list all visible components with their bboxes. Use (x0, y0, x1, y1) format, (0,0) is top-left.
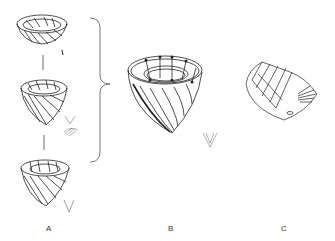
panel-b-cup (128, 56, 202, 133)
grouping-brace (90, 18, 110, 162)
panel-a-v-spicule (64, 200, 74, 212)
panel-a-middle-cup (21, 80, 67, 125)
panel-a-bottom-cup (21, 160, 69, 206)
panel-label-c: C (281, 224, 287, 233)
panel-c-shell (246, 62, 317, 120)
panel-b-v-spicule (203, 133, 217, 147)
panel-label-b: B (168, 224, 173, 233)
figure-canvas (0, 0, 335, 241)
panel-a-fan-spicule (64, 116, 78, 136)
panel-label-a: A (46, 224, 51, 233)
panel-a-top-cup (17, 15, 67, 44)
panel-a-spicule-mark (62, 50, 63, 55)
